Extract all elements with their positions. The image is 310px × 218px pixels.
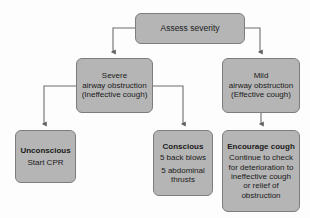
node-encourage-cough-line-2: for deterioration to [229,163,294,172]
node-unconscious[interactable]: Unconscious Start CPR [15,130,76,183]
node-encourage-cough-line-1: Continue to check [229,153,293,162]
node-encourage-cough-line-4: or relief of [243,181,279,190]
edge-assess-to-severe [113,28,135,52]
node-assess-severity[interactable]: Assess severity [135,13,245,44]
node-severe-line-3: (Ineffective cough) [82,90,148,99]
node-encourage-cough-heading: Encourage cough [227,142,295,151]
node-severe-line-2: airway obstruction [82,81,146,90]
node-unconscious-line-1: Start CPR [27,158,63,167]
node-mild-line-3: (Effective cough) [231,90,291,99]
edge-severe-to-unconscious [44,86,76,124]
flowchart-canvas: Assess severity Severe airway obstructio… [0,0,310,218]
node-assess-severity-line-1: Assess severity [160,23,219,33]
node-conscious[interactable]: Conscious 5 back blows 5 abdominal thrus… [153,130,213,196]
node-encourage-cough-line-3: ineffective cough [231,172,291,181]
node-severe-airway-obstruction[interactable]: Severe airway obstruction (Ineffective c… [76,58,153,113]
node-encourage-cough-line-5: obstruction [241,191,280,200]
node-conscious-line-1: 5 back blows [160,153,206,162]
node-mild-line-2: airway obstruction [229,81,293,90]
node-mild-airway-obstruction[interactable]: Mild airway obstruction (Effective cough… [222,58,300,113]
node-conscious-line-2: 5 abdominal [161,166,205,175]
node-conscious-heading: Conscious [163,142,204,151]
node-severe-line-1: Severe [102,71,127,80]
node-mild-line-1: Mild [254,71,269,80]
node-encourage-cough[interactable]: Encourage cough Continue to check for de… [222,130,300,212]
edge-assess-to-mild [245,28,260,52]
node-unconscious-heading: Unconscious [20,146,70,155]
node-conscious-line-3: thrusts [171,175,195,184]
edge-severe-to-conscious [153,86,183,124]
